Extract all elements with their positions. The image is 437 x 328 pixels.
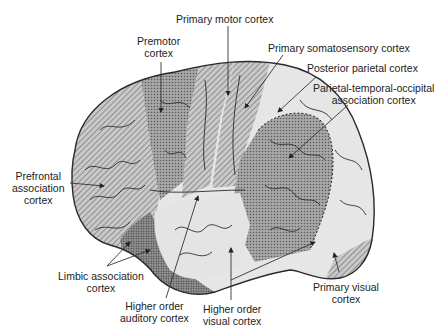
label-text: Limbic association [58,270,144,282]
label-primary-visual: Primary visual cortex [313,281,379,305]
label-text: Higher order [120,300,189,312]
label-text: Primary somatosensory cortex [268,42,410,54]
label-limbic: Limbic association cortex [58,270,144,294]
brain-diagram: Primary motor cortex Premotor cortex Pri… [0,0,437,328]
label-text: Parietal-temporal-occipital [313,82,434,94]
label-higher-visual: Higher order visual cortex [203,303,261,327]
label-text: Primary visual [313,281,379,293]
label-text: cortex [313,293,379,305]
label-posterior-parietal: Posterior parietal cortex [307,62,418,74]
label-premotor: Premotor cortex [137,35,180,59]
label-text: Higher order [203,303,261,315]
label-text: visual cortex [203,315,261,327]
label-text: association cortex [313,94,434,106]
label-text: Prefrontal [12,170,65,182]
label-primary-motor: Primary motor cortex [176,13,273,25]
label-text: Primary motor cortex [176,13,273,25]
label-text: cortex [137,47,180,59]
label-primary-somatosensory: Primary somatosensory cortex [268,42,410,54]
label-text: Posterior parietal cortex [307,62,418,74]
label-prefrontal: Prefrontal association cortex [12,170,65,206]
label-text: auditory cortex [120,312,189,324]
label-auditory: Higher order auditory cortex [120,300,189,324]
region-auditory [154,193,250,279]
label-pto: Parietal-temporal-occipital association … [313,82,434,106]
label-text: Premotor [137,35,180,47]
label-text: cortex [58,282,144,294]
label-text: association [12,182,65,194]
label-text: cortex [12,194,65,206]
